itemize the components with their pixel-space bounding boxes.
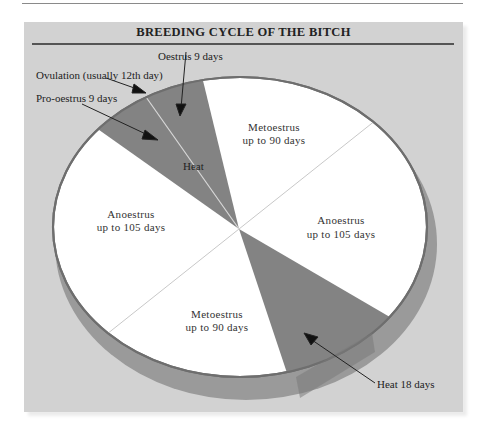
- label-metoestrus-top: Metoestrus: [248, 121, 300, 133]
- ovulation-arrowhead: [132, 84, 146, 93]
- label-anoestrus-left-detail: up to 105 days: [97, 221, 166, 233]
- diagram-panel: BREEDING CYCLE OF THE BITCH: [24, 22, 463, 412]
- label-oestrus: Oestrus 9 days: [158, 50, 223, 62]
- label-metoestrus-bottom: Metoestrus: [191, 308, 243, 320]
- label-pro-oestrus: Pro-oestrus 9 days: [36, 92, 117, 104]
- label-metoestrus-top-detail: up to 90 days: [243, 134, 306, 146]
- label-heat-18-days: Heat 18 days: [377, 378, 434, 390]
- label-anoestrus-left: Anoestrus: [107, 208, 154, 220]
- label-anoestrus-right-detail: up to 105 days: [307, 228, 376, 240]
- label-metoestrus-bottom-detail: up to 90 days: [186, 321, 249, 333]
- cycle-pie-chart: Oestrus 9 days Ovulation (usually 12th d…: [24, 22, 463, 412]
- label-anoestrus-right: Anoestrus: [317, 214, 364, 226]
- top-rule: [22, 3, 463, 4]
- label-heat-inner: Heat: [183, 160, 204, 172]
- label-ovulation: Ovulation (usually 12th day): [36, 69, 163, 82]
